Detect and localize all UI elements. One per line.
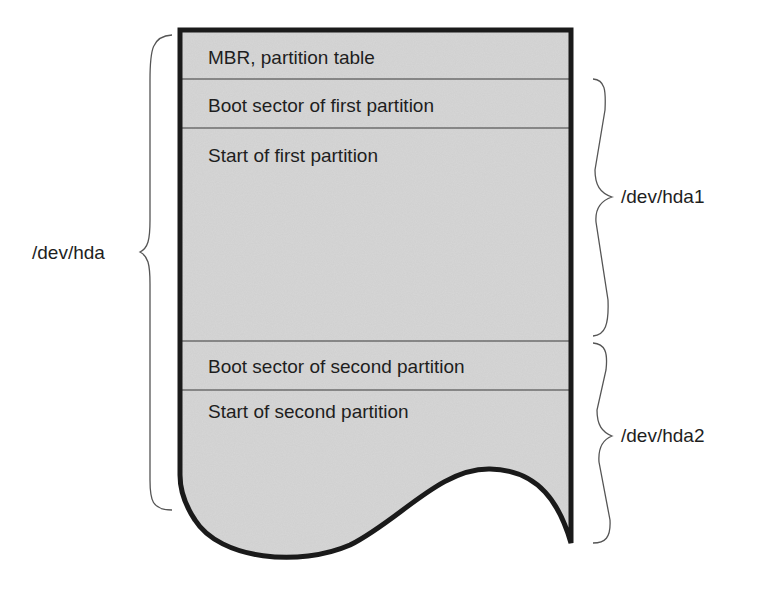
disk-diagram (0, 0, 767, 592)
brace-disk-label: /dev/hda (32, 243, 105, 262)
brace-partition2-icon (593, 343, 612, 543)
brace-partition1-label: /dev/hda1 (621, 187, 704, 206)
section-boot2-label: Boot sector of second partition (208, 357, 465, 376)
section-mbr-label: MBR, partition table (208, 48, 375, 67)
section-part2-label: Start of second partition (208, 402, 409, 421)
brace-partition2-label: /dev/hda2 (621, 426, 704, 445)
section-boot1-label: Boot sector of first partition (208, 96, 434, 115)
section-part1-label: Start of first partition (208, 146, 378, 165)
brace-partition1-icon (593, 79, 612, 336)
brace-disk-icon (140, 35, 172, 510)
